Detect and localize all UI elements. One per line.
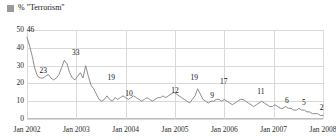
legend-swatch-terrorism	[7, 5, 14, 12]
data-point-label: 9	[210, 92, 214, 100]
data-point-label: 2	[320, 105, 324, 113]
x-axis-tick-label: Jan 2004	[112, 126, 139, 134]
y-axis-tick-label: 0	[20, 115, 24, 123]
data-point-label: 6	[285, 98, 289, 106]
data-point-label: 23	[40, 67, 48, 75]
x-axis-tick-label: Jan 2003	[63, 126, 90, 134]
legend-label-terrorism: % "Terrorism"	[18, 3, 65, 13]
data-point-label: 11	[257, 89, 264, 97]
series-line-terrorism	[27, 30, 323, 119]
data-point-label: 10	[125, 90, 133, 98]
data-point-label: 17	[220, 78, 228, 86]
chart-legend: % "Terrorism"	[7, 3, 65, 13]
y-axis-tick-label: 20	[17, 80, 25, 88]
y-axis: 01020304050	[0, 30, 24, 119]
y-axis-tick-label: 10	[17, 97, 25, 105]
x-axis-tick-label: Jan 2005	[162, 126, 189, 134]
gridline-horizontal	[27, 119, 323, 120]
x-axis-tick-label: Jan 2008	[310, 126, 336, 134]
data-point-label: 19	[108, 74, 116, 82]
y-axis-tick-label: 50	[17, 26, 25, 34]
data-point-label: 33	[72, 50, 80, 58]
data-point-label: 19	[190, 74, 198, 82]
data-point-label: 46	[27, 26, 35, 34]
y-axis-tick-label: 30	[17, 62, 25, 70]
x-axis-tick-label: Jan 2002	[14, 126, 41, 134]
x-axis-tick-label: Jan 2007	[260, 126, 287, 134]
data-point-label: 5	[302, 99, 306, 107]
x-axis-tick-label: Jan 2006	[211, 126, 238, 134]
data-point-label: 12	[171, 87, 179, 95]
y-axis-tick-label: 40	[17, 44, 25, 52]
plot-area	[27, 30, 323, 119]
